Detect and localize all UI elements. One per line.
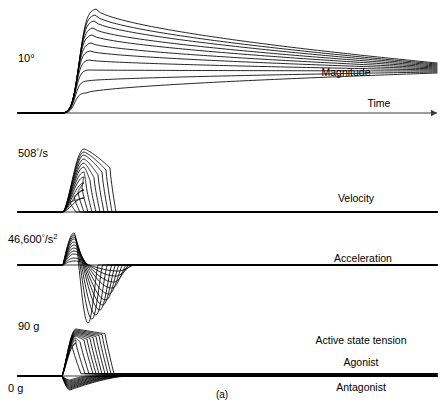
velocity-curve — [18, 198, 437, 212]
magnitude-scale-label: 10° — [18, 52, 35, 64]
acceleration-curve — [18, 233, 437, 323]
active-state-tension-label: Active state tension — [315, 334, 406, 346]
agonist-label: Agonist — [343, 356, 378, 368]
acceleration-panel — [18, 233, 437, 323]
acceleration-trace-label: Acceleration — [334, 252, 392, 264]
figure-caption: (a) — [216, 389, 228, 400]
acceleration-curve — [18, 239, 437, 310]
acceleration-curve — [18, 237, 437, 315]
velocity-trace-label: Velocity — [338, 192, 375, 204]
velocity-curve — [18, 177, 437, 212]
antagonist-label: Antagonist — [336, 381, 386, 393]
acceleration-curve — [18, 235, 437, 319]
figure-canvas: 10° 508°/s 46,600°/s2 90 g 0 g Magnitude… — [0, 0, 445, 410]
velocity-curve — [18, 183, 437, 212]
tension-high-scale-label: 90 g — [18, 320, 39, 332]
tension-low-scale-label: 0 g — [8, 382, 23, 394]
velocity-scale-label: 508°/s — [18, 147, 48, 159]
time-axis-arrowhead — [431, 110, 437, 116]
velocity-curve — [18, 190, 437, 212]
magnitude-trace-label: Magnitude — [321, 66, 370, 78]
saccade-dynamics-figure: 10° 508°/s 46,600°/s2 90 g 0 g Magnitude… — [0, 0, 445, 410]
time-axis-label: Time — [368, 97, 391, 109]
acceleration-scale-label: 46,600°/s2 — [8, 232, 57, 245]
velocity-panel — [18, 149, 437, 212]
